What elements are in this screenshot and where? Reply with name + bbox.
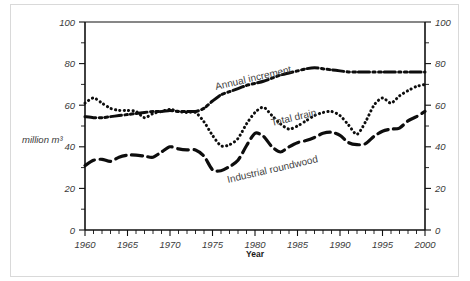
- series-annotations: Annual increment Total drain Industrial …: [214, 64, 319, 185]
- x-tick-label: 1985: [287, 239, 309, 250]
- y-tick-label-left: 20: [63, 183, 75, 194]
- series-label-annual-increment: Annual increment: [214, 64, 293, 92]
- x-tick-label: 1990: [329, 239, 351, 250]
- y-tick-label-left: 40: [64, 141, 75, 152]
- x-tick-label: 2000: [413, 239, 436, 250]
- y-tick-label-left: 100: [59, 17, 76, 28]
- series-line-industrial-roundwood: [85, 111, 425, 171]
- y-tick-label-right: 20: [434, 183, 446, 194]
- x-tick-label: 1970: [159, 239, 181, 250]
- chart-figure: 1960196519701975198019851990199520000204…: [0, 0, 470, 281]
- y-tick-label-left: 0: [70, 225, 76, 236]
- y-tick-label-right: 40: [435, 141, 446, 152]
- y-tick-label-right: 0: [435, 225, 441, 236]
- axes-group: [85, 22, 425, 230]
- x-tick-label: 1965: [117, 239, 139, 250]
- data-series-group: [85, 68, 425, 171]
- series-label-total-drain: Total drain: [270, 107, 317, 128]
- x-tick-label: 1975: [202, 239, 224, 250]
- y-axis-title: million m³: [22, 134, 63, 145]
- x-tick-label: 1960: [74, 239, 96, 250]
- y-tick-label-left: 60: [64, 100, 75, 111]
- y-tick-label-left: 80: [64, 58, 75, 69]
- y-tick-label-right: 100: [435, 17, 452, 28]
- tick-marks-group: [79, 22, 431, 236]
- line-chart: 1960196519701975198019851990199520000204…: [0, 0, 470, 281]
- x-axis-title: Year: [246, 249, 265, 259]
- y-tick-label-right: 60: [435, 100, 446, 111]
- y-tick-label-right: 80: [435, 58, 446, 69]
- x-tick-label: 1995: [372, 239, 394, 250]
